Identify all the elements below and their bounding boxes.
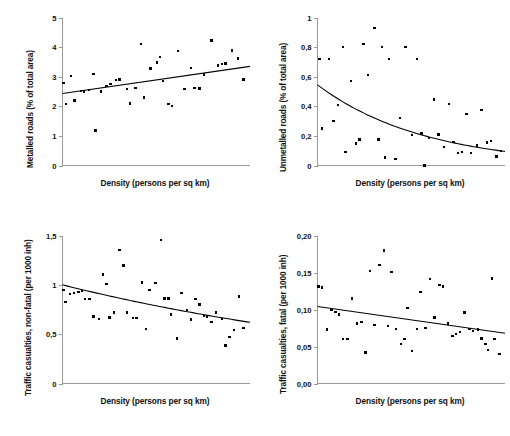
x-axis-label: Density (persons per sq km): [101, 396, 210, 406]
data-point: [328, 58, 330, 60]
axes: [318, 18, 506, 166]
data-point: [190, 318, 192, 320]
data-point: [358, 138, 360, 140]
data-point: [493, 338, 495, 340]
data-point: [198, 303, 200, 305]
data-point: [242, 327, 244, 329]
data-point: [183, 88, 185, 90]
data-point: [126, 88, 128, 90]
x-axis-label: Density (persons per sq km): [356, 178, 465, 188]
data-point: [355, 142, 357, 144]
trend-line: [318, 307, 506, 334]
data-point: [437, 133, 439, 135]
data-point: [231, 49, 233, 51]
data-point: [480, 109, 482, 111]
y-axis-tick-label: 0,5: [46, 330, 57, 339]
data-point: [160, 239, 162, 241]
data-point: [455, 333, 457, 335]
data-point: [384, 156, 386, 158]
data-point: [351, 297, 353, 299]
axes: [63, 236, 251, 384]
data-point: [457, 152, 459, 154]
axes: [318, 236, 506, 384]
y-axis-tick-label: 0,15: [297, 269, 313, 278]
y-axis-tick-label: 5: [52, 14, 57, 23]
y-axis-ticks: 00,511,5: [46, 232, 63, 389]
data-point: [129, 102, 131, 104]
data-point: [404, 46, 406, 48]
y-axis-label-group: Traffic casualties, fatal (per 1000 inh): [278, 254, 288, 394]
data-point: [463, 311, 465, 313]
data-point: [459, 331, 461, 333]
data-point: [180, 292, 182, 294]
panel-unmetalled-roads: Unmetalled roads (% of total area) 00,20…: [255, 0, 510, 218]
data-point: [194, 298, 196, 300]
data-point: [465, 113, 467, 115]
data-point: [148, 289, 150, 291]
data-points: [317, 249, 500, 355]
data-point: [411, 134, 413, 136]
data-point: [476, 144, 478, 146]
data-point: [419, 291, 421, 293]
data-point: [334, 311, 336, 313]
data-point: [145, 328, 147, 330]
y-axis-ticks: 00,20,40,60,81: [301, 14, 318, 171]
y-axis-tick-label: 0: [307, 162, 311, 171]
data-point: [163, 297, 165, 299]
data-point: [424, 327, 426, 329]
data-point: [115, 79, 117, 81]
data-point: [346, 338, 348, 340]
data-point: [470, 152, 472, 154]
data-point: [486, 141, 488, 143]
data-point: [64, 301, 66, 303]
y-axis-tick-label: 1: [52, 281, 57, 290]
data-point: [342, 338, 344, 340]
y-axis-tick-label: 1: [52, 132, 57, 141]
data-point: [159, 56, 161, 58]
data-point: [186, 309, 188, 311]
data-point: [369, 270, 371, 272]
data-point: [126, 311, 128, 313]
data-point: [338, 313, 340, 315]
data-point: [406, 307, 408, 309]
data-point: [487, 349, 489, 351]
data-point: [332, 120, 334, 122]
data-point: [416, 58, 418, 60]
data-point: [367, 74, 369, 76]
panel-traffic-casualties-fatal-plot: Traffic casualties, fatal (per 1000 inh)…: [255, 218, 510, 436]
data-point: [321, 286, 323, 288]
data-point: [62, 289, 64, 291]
data-point: [73, 292, 75, 294]
data-point: [423, 164, 425, 166]
data-point: [490, 140, 492, 142]
y-axis-label-group: Unmetalled roads (% of total area): [278, 43, 288, 172]
data-point: [342, 46, 344, 48]
data-point: [215, 311, 217, 313]
y-axis-tick-label: 3: [52, 73, 56, 82]
data-point: [100, 90, 102, 92]
y-axis-tick-label: 0,20: [297, 232, 312, 241]
data-point: [330, 309, 332, 311]
data-point: [210, 321, 212, 323]
trend-line: [63, 66, 251, 93]
data-point: [167, 297, 169, 299]
y-axis-tick-label: 0,05: [297, 343, 313, 352]
data-point: [210, 39, 212, 41]
data-point: [491, 277, 493, 279]
data-point: [390, 271, 392, 273]
data-point: [344, 151, 346, 153]
data-point: [62, 82, 64, 84]
data-point: [362, 43, 364, 45]
data-point: [350, 80, 352, 82]
data-point: [495, 155, 497, 157]
data-point: [364, 351, 366, 353]
data-point: [480, 337, 482, 339]
data-point: [233, 329, 235, 331]
y-axis-tick-label: 1,5: [46, 232, 57, 241]
panel-metalled-roads: Metalled roads (% of total area) 012345 …: [0, 0, 255, 218]
data-point: [224, 62, 226, 64]
data-point: [400, 343, 402, 345]
data-point: [326, 328, 328, 330]
data-point: [69, 293, 71, 295]
data-point: [70, 75, 72, 77]
